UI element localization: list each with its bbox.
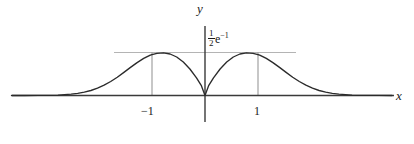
one-half-fraction: 1 2 [208, 29, 215, 48]
peak-value-annotation: 1 2 e−1 [208, 29, 229, 48]
x-axis-label: x [396, 89, 402, 102]
x-tick-label-positive-one: 1 [254, 105, 260, 117]
y-axis-label: y [197, 2, 203, 15]
euler-exponent: −1 [220, 31, 229, 40]
function-plot-figure: y x −1 1 1 2 e−1 [0, 0, 414, 144]
x-tick-label-negative-one: −1 [141, 105, 154, 117]
fraction-denominator: 2 [208, 39, 215, 48]
function-curve [12, 53, 393, 96]
plot-canvas [0, 0, 414, 144]
